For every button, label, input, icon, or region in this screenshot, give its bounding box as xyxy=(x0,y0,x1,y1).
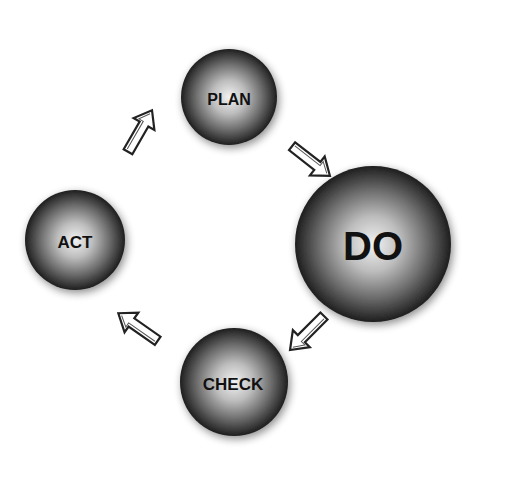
do-label: DO xyxy=(343,224,403,268)
arrow-act-to-plan-icon xyxy=(118,104,163,158)
check-label: CHECK xyxy=(203,375,264,394)
pdca-diagram: PLAN DO CHECK ACT xyxy=(0,0,505,493)
arrow-check-to-act-icon xyxy=(111,303,164,350)
act-label: ACT xyxy=(58,233,94,252)
plan-label: PLAN xyxy=(207,91,251,108)
arrow-plan-to-do-icon xyxy=(285,137,338,185)
arrow-do-to-check-icon xyxy=(282,308,333,359)
